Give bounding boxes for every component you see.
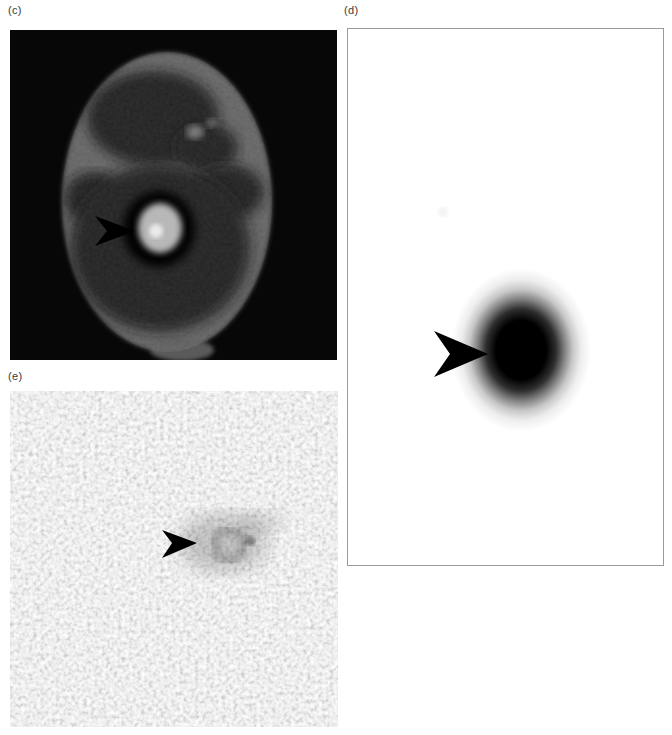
noise-field xyxy=(10,391,338,727)
panel-d-hotspot-image xyxy=(348,29,663,565)
figure-canvas: (c) xyxy=(0,0,672,735)
ct-lesion xyxy=(123,191,195,267)
panel-label-d: (d) xyxy=(344,4,358,16)
panel-label-e: (e) xyxy=(8,370,22,382)
panel-c-ct-brain-image xyxy=(10,30,337,360)
panel-e-noise-mr-image xyxy=(10,391,338,727)
faint-smudge xyxy=(438,207,448,217)
panel-label-c: (c) xyxy=(8,4,22,16)
panel-d-frame xyxy=(347,28,664,566)
